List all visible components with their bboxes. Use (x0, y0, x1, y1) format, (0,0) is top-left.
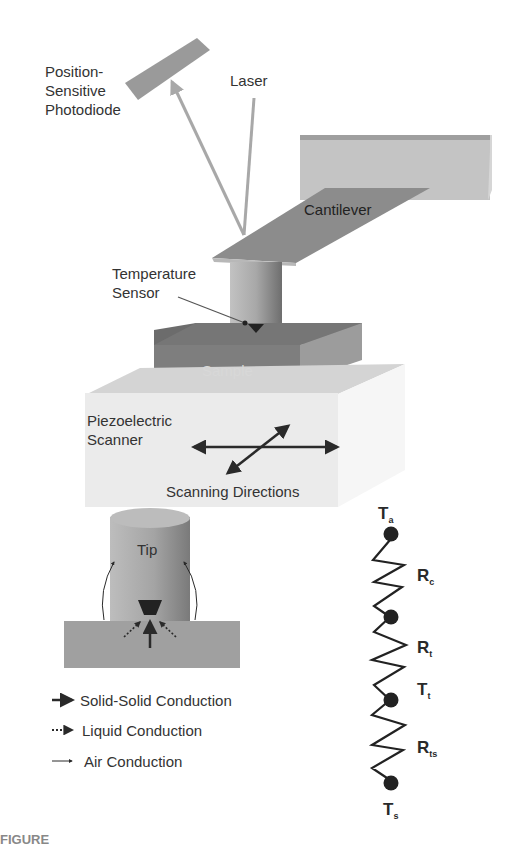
node-tt (384, 693, 399, 708)
node-ta (384, 527, 399, 542)
resistor-rts-label: Rts (417, 738, 437, 758)
node-junction (384, 610, 399, 625)
resistor-rc-label: Rc (417, 566, 434, 586)
legend-item-liquid: Liquid Conduction (82, 720, 202, 740)
scanner-label: Piezoelectric Scanner (87, 411, 172, 449)
legend-item-air: Air Conduction (84, 751, 182, 771)
laser-label: Laser (230, 71, 268, 90)
thermal-resistance-network (372, 527, 406, 791)
legend-swatches (52, 700, 72, 761)
stm-diagram: Position- Sensitive Photodiode Laser Can… (0, 0, 519, 845)
resistor-rt-label: Rt (417, 638, 432, 658)
node-ts (384, 776, 399, 791)
node-tt-label: Tt (417, 680, 430, 700)
tip-closeup (64, 508, 240, 668)
scanning-directions-label: Scanning Directions (166, 482, 299, 501)
diagram-drawing (0, 0, 519, 845)
photodiode-label: Position- Sensitive Photodiode (45, 62, 121, 119)
caption-fragment: FIGURE (0, 832, 519, 845)
cantilever-label: Cantilever (304, 200, 372, 219)
node-ta-label: Ta (378, 504, 393, 524)
laser-beams (172, 82, 254, 235)
temperature-sensor-label: Temperature Sensor (112, 264, 196, 302)
tip-label: Tip (137, 540, 157, 559)
node-ts-label: Ts (383, 800, 398, 820)
sample-label: Sample (202, 361, 253, 380)
photodiode-shape (125, 38, 210, 100)
legend-item-solid: Solid-Solid Conduction (80, 690, 232, 710)
